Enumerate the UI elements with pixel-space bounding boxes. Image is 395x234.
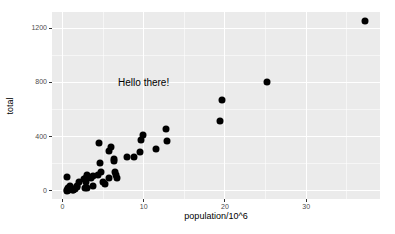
scatter-point [162, 125, 169, 132]
x-tick-label: 20 [210, 203, 240, 211]
minor-gridline-horizontal [52, 55, 380, 56]
scatter-point [74, 184, 81, 191]
scatter-point [130, 154, 137, 161]
x-tick-mark [224, 199, 225, 202]
scatter-point [81, 184, 88, 191]
scatter-point [96, 140, 103, 147]
x-tick-mark [143, 199, 144, 202]
x-tick-mark [62, 199, 63, 202]
x-axis-title: population/10^6 [52, 211, 380, 221]
major-gridline-horizontal [52, 190, 380, 191]
scatter-point [64, 174, 71, 181]
scatter-point [124, 153, 131, 160]
scatter-point [219, 97, 226, 104]
y-tick-mark [49, 82, 52, 83]
minor-gridline-vertical [184, 12, 185, 199]
major-gridline-horizontal [52, 28, 380, 29]
scatter-point [263, 78, 270, 85]
minor-gridline-horizontal [52, 109, 380, 110]
y-axis-title-text: total [4, 97, 14, 114]
scatter-point [216, 117, 223, 124]
scatter-point [113, 175, 120, 182]
y-tick-mark [49, 190, 52, 191]
y-tick-mark [49, 28, 52, 29]
scatter-point [89, 172, 96, 179]
scatter-point [110, 158, 117, 165]
scatter-point [163, 138, 170, 145]
y-axis-title: total [3, 12, 15, 199]
scatter-point [102, 180, 109, 187]
major-gridline-horizontal [52, 136, 380, 137]
major-gridline-vertical [143, 12, 144, 199]
scatter-point [63, 187, 70, 194]
x-tick-label: 10 [129, 203, 159, 211]
scatter-point [362, 17, 369, 24]
scatter-point [96, 159, 103, 166]
scatter-point [139, 131, 146, 138]
x-tick-label: 30 [291, 203, 321, 211]
scatter-plot: Hello there! 010203004008001200 populati… [0, 0, 395, 234]
scatter-point [90, 182, 97, 189]
x-tick-label: 0 [47, 203, 77, 211]
major-gridline-horizontal [52, 82, 380, 83]
minor-gridline-vertical [265, 12, 266, 199]
x-tick-mark [306, 199, 307, 202]
major-gridline-vertical [306, 12, 307, 199]
plot-annotation-text: Hello there! [118, 77, 169, 88]
plot-panel: Hello there! [52, 12, 380, 199]
scatter-point [105, 174, 112, 181]
scatter-point [108, 144, 115, 151]
scatter-point [153, 145, 160, 152]
scatter-point [136, 149, 143, 156]
y-tick-mark [49, 136, 52, 137]
major-gridline-vertical [224, 12, 225, 199]
minor-gridline-vertical [346, 12, 347, 199]
major-gridline-vertical [62, 12, 63, 199]
